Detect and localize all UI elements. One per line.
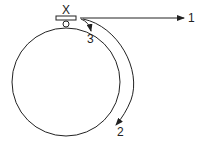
diagram-svg: X 1 3 2	[0, 0, 202, 142]
big-circle	[12, 28, 120, 136]
small-circle	[63, 21, 69, 27]
label-x: X	[62, 3, 70, 17]
diagram-canvas: X 1 3 2	[0, 0, 202, 142]
label-1: 1	[188, 11, 195, 25]
label-2: 2	[117, 125, 124, 139]
label-3: 3	[87, 32, 94, 46]
